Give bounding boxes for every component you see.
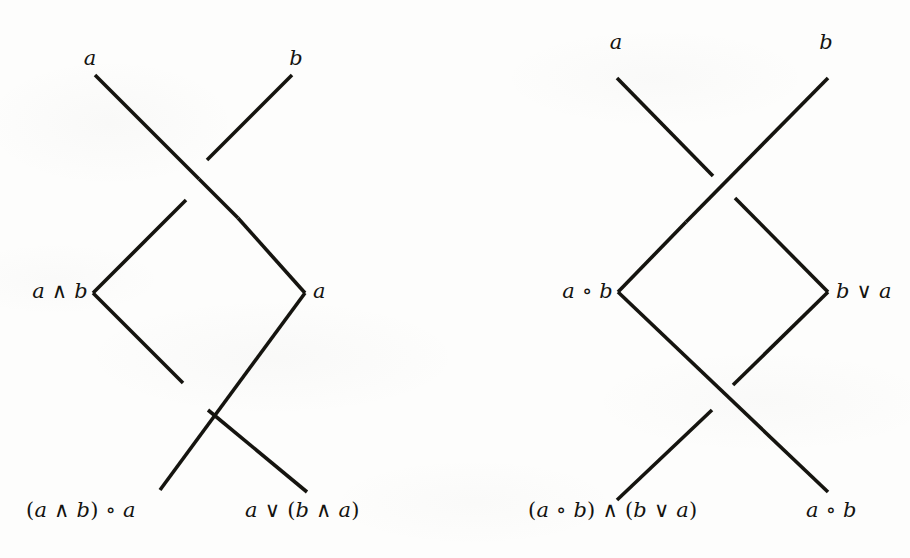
left-strand-bottom-right xyxy=(208,410,307,492)
right-diagram-strands xyxy=(617,78,828,500)
right-label-top-left: a xyxy=(610,30,623,54)
figure-page: a b a ∧ b a (a ∧ b) ∘ a a ∨ (b ∧ a) a b … xyxy=(0,0,910,558)
left-diagram-strands xyxy=(93,75,307,492)
right-label-top-right: b xyxy=(819,30,833,54)
left-label-top-left: a xyxy=(84,46,97,70)
left-strand-lower-left-diamond xyxy=(93,293,183,383)
right-label-bottom-right: a ∘ b xyxy=(806,498,857,522)
left-strand-upper-right-diamond xyxy=(238,218,305,293)
right-strand-upper-left-diamond xyxy=(618,222,686,292)
right-strand-upper-right-diamond xyxy=(735,198,828,292)
right-strand-lower-right-diamond xyxy=(733,292,828,385)
left-strand-lower-right-diamond-over xyxy=(160,293,305,490)
left-strand-upper-left-diamond xyxy=(93,200,186,293)
diagram-strokes xyxy=(0,0,910,558)
right-strand-bottom-left xyxy=(617,410,712,500)
left-label-mid-left: a ∧ b xyxy=(32,279,88,303)
left-strand-top-right xyxy=(207,75,292,160)
left-label-bottom-right: a ∨ (b ∧ a) xyxy=(245,498,360,522)
right-label-mid-right: b ∨ a xyxy=(836,279,892,303)
right-strand-top-left xyxy=(617,78,713,176)
right-strand-top-right-over xyxy=(686,78,828,222)
left-label-top-right: b xyxy=(289,46,303,70)
right-label-bottom-left: (a ∘ b) ∧ (b ∨ a) xyxy=(528,498,698,522)
left-label-mid-right: a xyxy=(313,279,326,303)
right-label-mid-left: a ∘ b xyxy=(562,279,613,303)
left-strand-top-left-over xyxy=(199,179,238,218)
left-strand-top-left xyxy=(95,75,199,179)
left-label-bottom-left: (a ∧ b) ∘ a xyxy=(26,498,136,522)
